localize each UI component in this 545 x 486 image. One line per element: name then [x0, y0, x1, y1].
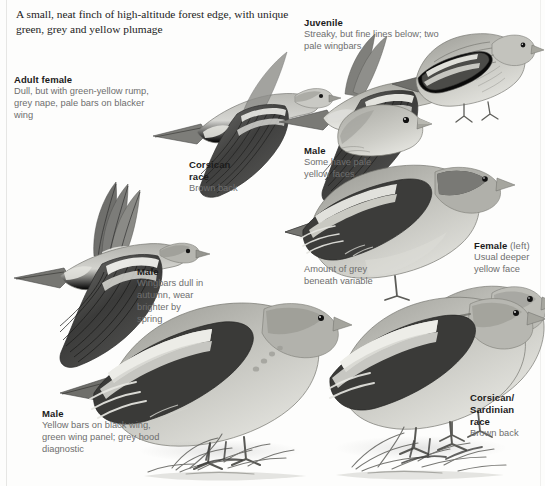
label-corsican-race-flight-body: Brown back	[189, 183, 251, 195]
label-male-head: Male Some have pale yellow faces	[304, 145, 386, 181]
label-male-flight-body: Wingbars dull in autumn, wear brighter b…	[137, 278, 205, 326]
label-male-head-body: Some have pale yellow faces	[304, 157, 386, 181]
bird-identification-plate: A small, neat finch of high-altitude for…	[0, 0, 545, 486]
label-female-perched-heading: Female (left)	[474, 240, 544, 252]
label-juvenile: Juvenile Streaky, but fine lines below; …	[304, 17, 454, 53]
label-adult-female-body: Dull, but with green-yellow rump, grey n…	[14, 86, 149, 122]
label-juvenile-body: Streaky, but fine lines below; two pale …	[304, 29, 454, 53]
label-female-perched: Female (left) Usual deeper yellow face	[474, 240, 544, 276]
label-female-perched-body: Usual deeper yellow face	[474, 252, 544, 276]
label-male-perched-body: Yellow bars on black wing, green wing pa…	[42, 420, 167, 456]
label-adult-female-heading: Adult female	[14, 74, 149, 86]
label-corsican-sardinian-race: Corsican/ Sardinian race Brown back	[470, 392, 532, 440]
label-juvenile-heading: Juvenile	[304, 17, 454, 29]
label-male-flight-heading: Male	[137, 266, 205, 278]
label-corsican-sardinian-race-heading: Corsican/ Sardinian race	[470, 392, 532, 428]
label-male-perched-heading: Male	[42, 408, 167, 420]
label-corsican-race-flight: Corsican race Brown back	[189, 159, 251, 195]
label-grey-note-body: Amount of grey beneath variable	[304, 264, 394, 288]
label-adult-female: Adult female Dull, but with green-yellow…	[14, 74, 149, 122]
label-male-perched: Male Yellow bars on black wing, green wi…	[42, 408, 167, 456]
label-male-flight: Male Wingbars dull in autumn, wear brigh…	[137, 266, 205, 326]
label-female-perched-suffix: (left)	[510, 240, 530, 251]
label-grey-note: Amount of grey beneath variable	[304, 264, 394, 288]
label-corsican-race-flight-heading: Corsican race	[189, 159, 251, 183]
label-corsican-sardinian-race-body: Brown back	[470, 428, 532, 440]
plate-intro-text: A small, neat finch of high-altitude for…	[16, 7, 316, 38]
label-male-head-heading: Male	[304, 145, 386, 157]
page-edge-rule-left	[6, 0, 7, 486]
